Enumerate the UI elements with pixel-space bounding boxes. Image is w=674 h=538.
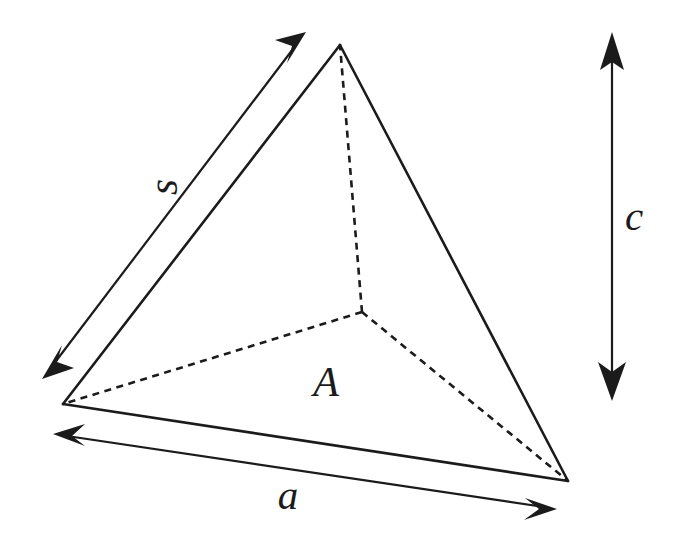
slant-dimension-arrowhead-lower — [42, 345, 74, 379]
edge-left-to-apex — [63, 45, 340, 404]
slant-dimension-arrowhead-upper — [275, 32, 306, 63]
slant-edge-dimension-arrow — [42, 32, 306, 379]
tetrahedron-diagram: s a A c — [0, 0, 674, 538]
diagram-canvas — [0, 0, 674, 538]
hidden-edge-back-to-right — [362, 312, 568, 481]
solid-edges-group — [63, 45, 568, 481]
base-dimension-line — [67, 436, 544, 507]
base-dimension-arrowhead-left — [53, 424, 85, 446]
edge-left-to-right — [63, 404, 568, 481]
height-dimension-arrow — [598, 32, 626, 401]
base-edge-label: a — [278, 475, 299, 516]
edge-apex-to-right — [340, 45, 568, 481]
hidden-edge-back-to-apex — [340, 45, 362, 312]
base-dimension-arrowhead-right — [524, 498, 557, 520]
slant-edge-label: s — [143, 179, 184, 195]
base-edge-dimension-arrow — [53, 424, 557, 520]
height-label: c — [625, 196, 643, 237]
base-area-label: A — [313, 361, 339, 403]
slant-dimension-line — [53, 45, 296, 365]
